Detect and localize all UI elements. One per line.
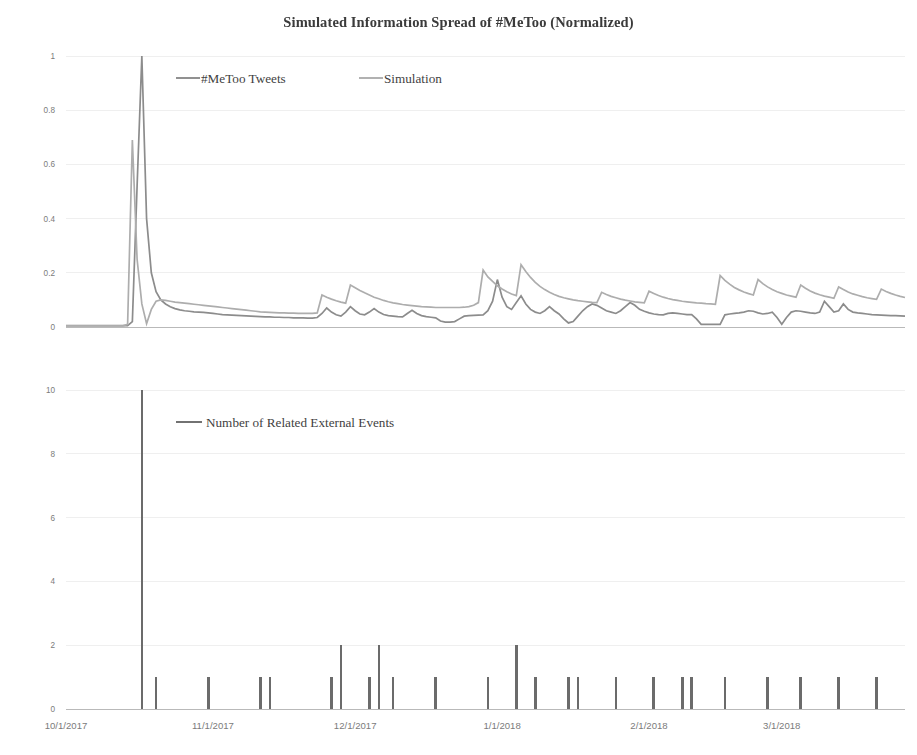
bottom-chart-panel: 024681010/1/201711/1/201712/1/20171/1/20…: [0, 0, 917, 755]
event-bars-group: [142, 390, 877, 709]
bottom-y-tick-label: 4: [50, 577, 55, 586]
bottom-gridlines: [66, 390, 905, 709]
x-tick-label: 10/1/2017: [45, 720, 88, 731]
x-tick-label: 2/1/2018: [630, 720, 667, 731]
bottom-y-tick-labels: 0246810: [46, 386, 56, 714]
x-tick-label: 12/1/2017: [334, 720, 377, 731]
x-tick-label: 1/1/2018: [483, 720, 520, 731]
bottom-y-tick-label: 2: [50, 641, 55, 650]
legend-label: Number of Related External Events: [206, 415, 394, 430]
x-tick-label: 3/1/2018: [763, 720, 800, 731]
figure-root: Simulated Information Spread of #MeToo (…: [0, 0, 917, 755]
bottom-y-tick-label: 10: [46, 386, 56, 395]
bottom-y-tick-label: 8: [50, 450, 55, 459]
bottom-chart-legend: Number of Related External Events: [176, 415, 394, 430]
x-tick-label: 11/1/2017: [192, 720, 234, 731]
bottom-y-tick-label: 0: [50, 705, 55, 714]
bottom-y-tick-label: 6: [50, 514, 55, 523]
x-tick-labels: 10/1/201711/1/201712/1/20171/1/20182/1/2…: [45, 720, 801, 731]
